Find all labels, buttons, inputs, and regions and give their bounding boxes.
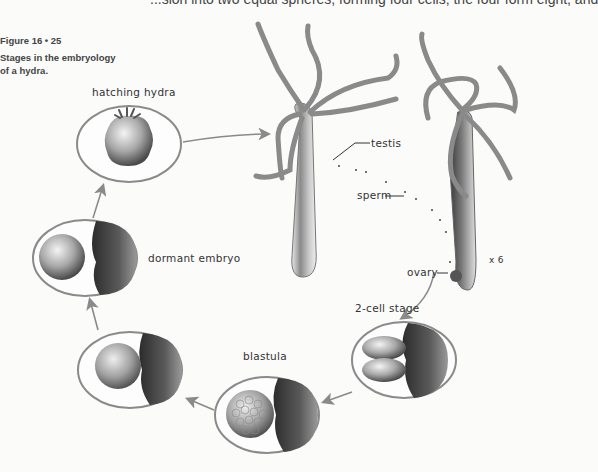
label-testis: testis (371, 137, 401, 149)
label-sperm: sperm (357, 189, 391, 201)
hydra-female (422, 34, 516, 290)
label-ovary: ovary (407, 266, 438, 278)
label-blastula: blastula (243, 350, 287, 362)
blastula-ellipse (215, 377, 319, 453)
morula-ellipse (78, 332, 182, 408)
dormant-embryo-ellipse (33, 220, 137, 296)
hydra-male (256, 24, 397, 277)
magnification-label: x 6 (489, 255, 504, 265)
hatching-hydra-ellipse (77, 106, 181, 182)
label-dormant-embryo: dormant embryo (148, 252, 241, 264)
two-cell-ellipse (352, 322, 456, 398)
ovary-knob (450, 270, 462, 282)
label-two-cell-stage: 2-cell stage (355, 302, 420, 314)
label-hatching-hydra: hatching hydra (92, 86, 176, 98)
